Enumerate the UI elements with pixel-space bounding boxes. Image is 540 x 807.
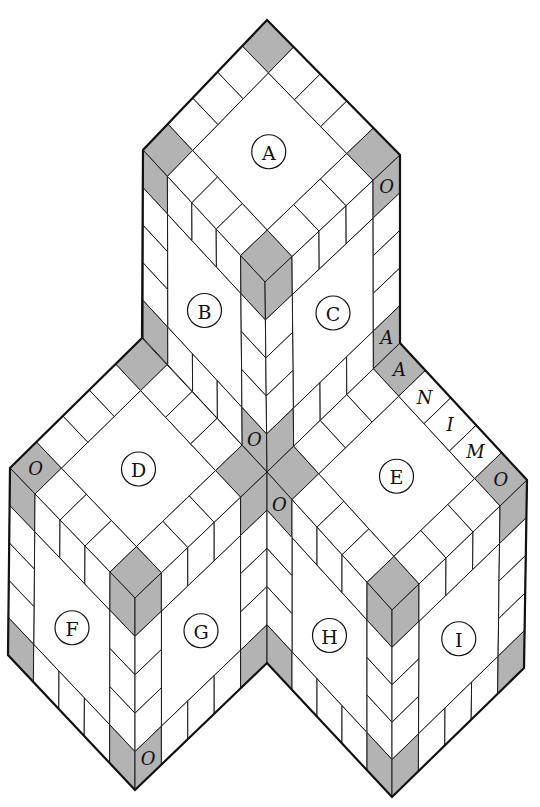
cell-letter: O: [493, 469, 508, 490]
face-label-i: I: [442, 622, 476, 656]
cell-letter: M: [465, 441, 485, 462]
face-label-text: F: [65, 618, 78, 640]
cell-letter: N: [416, 387, 434, 408]
face-label-text: E: [390, 466, 404, 488]
cell-letter: O: [141, 748, 156, 769]
face-label-text: H: [321, 626, 338, 648]
face-label-text: B: [198, 301, 212, 323]
cell-letter: O: [272, 494, 287, 515]
face-label-e: E: [380, 459, 414, 493]
three-cube-puzzle-diagram: OOAOOMINAOO ABCDEFGHI: [0, 0, 540, 807]
face-label-text: D: [131, 459, 146, 481]
face-label-g: G: [184, 614, 218, 648]
cell-letter: O: [247, 429, 262, 450]
cell-letter: I: [446, 414, 455, 435]
face-label-a: A: [252, 135, 286, 169]
cell-letter: O: [379, 176, 394, 197]
cell-letter: A: [391, 359, 406, 380]
face-label-text: G: [193, 621, 208, 643]
face-label-text: A: [261, 142, 276, 164]
face-label-f: F: [55, 611, 89, 645]
face-label-c: C: [316, 296, 350, 330]
face-label-h: H: [313, 619, 347, 653]
cell-letter: A: [378, 327, 393, 348]
face-label-d: D: [122, 452, 156, 486]
face-label-text: I: [455, 629, 463, 651]
face-label-text: C: [326, 303, 341, 325]
cell-letter: O: [28, 458, 43, 479]
face-label-b: B: [188, 294, 222, 328]
